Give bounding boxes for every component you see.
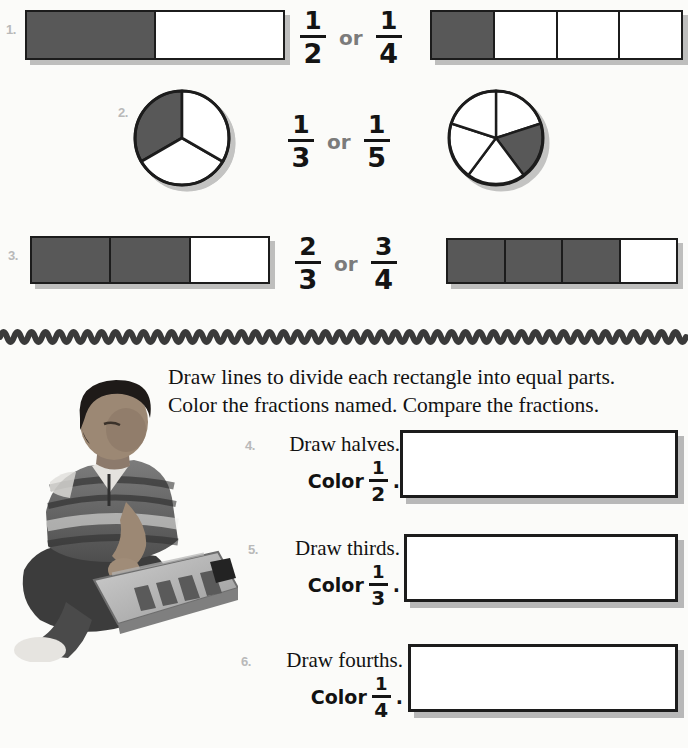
task-4-prompt: Draw halves. [150, 432, 400, 457]
bar-cell[interactable] [191, 238, 268, 282]
bar-cell[interactable] [620, 12, 681, 58]
task-4-color-instruction: Color 1 2 . [150, 459, 400, 504]
fraction-bar-model-3-right[interactable] [446, 238, 678, 284]
period: . [393, 574, 400, 596]
fraction-comparison-1: 1 2 or 1 4 [300, 8, 402, 67]
fraction-one-third: 1 3 [369, 563, 388, 608]
fraction-one-half: 1 2 [369, 459, 388, 504]
worksheet-page: 1. 1 2 or 1 4 2. [0, 0, 688, 748]
fraction-bar-model-1-left[interactable] [25, 10, 285, 60]
instruction-line-2: Color the fractions named. Compare the f… [168, 392, 688, 420]
fraction-one-third: 1 3 [288, 112, 314, 171]
answer-box-5[interactable] [404, 534, 678, 602]
problem-number-1: 1. [6, 22, 16, 37]
answer-box-4[interactable] [400, 430, 678, 498]
fraction-bar-model-3-left[interactable] [30, 236, 270, 284]
task-5-color-instruction: Color 1 3 . [150, 563, 400, 608]
bar-cell[interactable] [27, 12, 156, 58]
wavy-divider [0, 320, 688, 350]
fraction-one-fourth: 1 4 [376, 8, 402, 67]
fraction-circle-model-2-left[interactable] [130, 86, 234, 190]
bar-cell[interactable] [111, 238, 190, 282]
task-6-label: Draw fourths. Color 1 4 . [145, 648, 403, 720]
connector-or: or [334, 252, 358, 276]
problem-number-3: 3. [8, 248, 18, 263]
fraction-comparison-3: 2 3 or 3 4 [295, 234, 397, 293]
fraction-one-half: 1 2 [300, 8, 326, 67]
fraction-comparison-2: 1 3 or 1 5 [288, 112, 390, 171]
bar-cell[interactable] [621, 240, 677, 282]
bar-cell[interactable] [448, 240, 506, 282]
bar-cell[interactable] [156, 12, 283, 58]
bar-cell[interactable] [432, 12, 495, 58]
period: . [396, 686, 403, 708]
fraction-two-thirds: 2 3 [295, 234, 321, 293]
period: . [393, 470, 400, 492]
task-5-label: Draw thirds. Color 1 3 . [150, 536, 400, 608]
task-6-color-instruction: Color 1 4 . [145, 675, 403, 720]
fraction-one-fifth: 1 5 [364, 112, 390, 171]
bar-cell[interactable] [32, 238, 111, 282]
fraction-three-fourths: 3 4 [371, 234, 397, 293]
bar-cell[interactable] [495, 12, 558, 58]
fraction-bar-model-1-right[interactable] [430, 10, 683, 60]
problem-number-2: 2. [118, 105, 128, 120]
task-6-prompt: Draw fourths. [145, 648, 403, 673]
color-word: Color [308, 470, 364, 492]
bar-cell[interactable] [563, 240, 621, 282]
color-word: Color [311, 686, 367, 708]
connector-or: or [327, 130, 351, 154]
fraction-circle-model-2-right[interactable] [444, 86, 548, 190]
instruction-line-1: Draw lines to divide each rectangle into… [168, 364, 688, 392]
fraction-one-fourth: 1 4 [372, 675, 391, 720]
connector-or: or [339, 26, 363, 50]
task-5-prompt: Draw thirds. [150, 536, 400, 561]
bar-cell[interactable] [506, 240, 564, 282]
task-4-label: Draw halves. Color 1 2 . [150, 432, 400, 504]
instructions-block: Draw lines to divide each rectangle into… [168, 364, 688, 419]
color-word: Color [308, 574, 364, 596]
bar-cell[interactable] [558, 12, 621, 58]
answer-box-6[interactable] [408, 644, 678, 712]
